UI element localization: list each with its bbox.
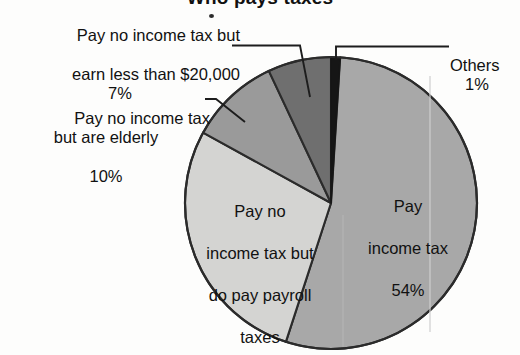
label-others: Others 1% (450, 36, 518, 114)
label-under20k-line2: earn less than $20,000 (72, 65, 240, 83)
label-payroll-line4: taxes (240, 328, 279, 346)
label-incometax-percent: 54% (391, 281, 424, 299)
label-pay-no-income-tax-but-do-pay-payroll-taxes: Pay no income tax but do pay payroll tax… (196, 180, 324, 355)
chart-canvas: Who pays taxes (0, 0, 520, 355)
label-elderly-line2: but are elderly (2, 128, 210, 148)
label-payroll-line1: Pay no (234, 202, 285, 220)
label-elderly-percent: 10% (2, 167, 210, 187)
label-incometax-line2: income tax (368, 239, 448, 257)
label-payroll-line2: income tax but (206, 244, 313, 262)
label-payroll-line3: do pay payroll (209, 286, 312, 304)
label-incometax-line1: Pay (394, 197, 422, 215)
label-others-percent: 1% (450, 75, 518, 95)
label-pay-no-income-tax-but-are-elderly: Pay no income tax but are elderly 10% (2, 89, 210, 206)
label-others-line1: Others (450, 56, 500, 74)
label-under20k-line1: Pay no income tax but (77, 26, 240, 44)
label-elderly-line1: Pay no income tax (74, 109, 210, 127)
label-pay-income-tax: Pay income tax 54% (349, 175, 467, 301)
